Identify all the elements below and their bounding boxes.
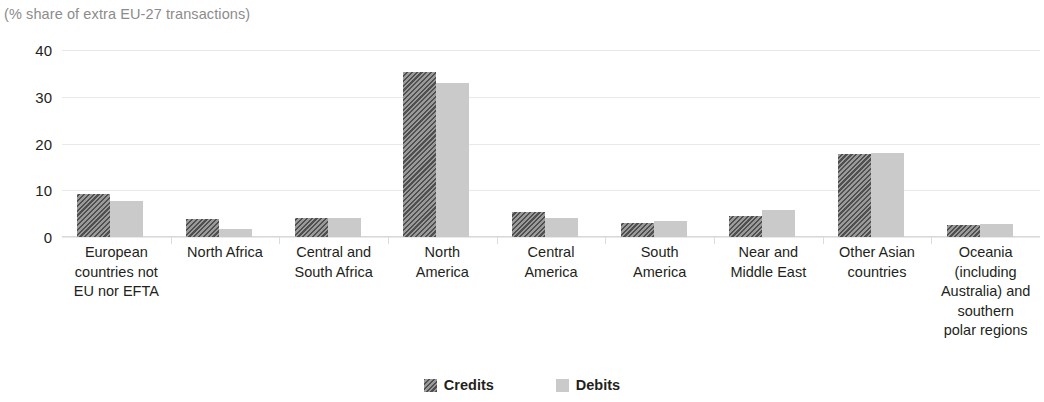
category-label-line: Central and — [275, 243, 392, 263]
bar-credits — [729, 216, 762, 237]
bar-debits — [654, 221, 687, 237]
bar-group — [62, 50, 171, 237]
legend-item-credits[interactable]: Credits — [424, 377, 494, 393]
legend-item-debits[interactable]: Debits — [556, 377, 620, 393]
bar-debits — [545, 218, 578, 237]
category-label-line: America — [493, 263, 610, 283]
category-label-line: South Africa — [275, 263, 392, 283]
x-axis-category-label: North Africa — [167, 243, 284, 263]
bar-credits — [295, 218, 328, 237]
x-axis-category-label: Other Asiancountries — [819, 243, 936, 282]
legend-label: Credits — [444, 377, 494, 393]
category-label-line: Other Asian — [819, 243, 936, 263]
category-label-line: Australia) and — [927, 282, 1044, 302]
category-label-line: America — [601, 263, 718, 283]
bar-debits — [436, 83, 469, 237]
bar-credits — [403, 72, 436, 237]
gridline-0 — [62, 237, 1040, 238]
bar-group — [714, 50, 823, 237]
bar-credits — [947, 225, 980, 237]
bar-group — [931, 50, 1040, 237]
category-label-line: Central — [493, 243, 610, 263]
bar-debits — [219, 229, 252, 237]
category-label-line: polar regions — [927, 321, 1044, 341]
category-label-line: EU nor EFTA — [58, 282, 175, 302]
category-label-line: (including — [927, 263, 1044, 283]
bar-debits — [980, 224, 1013, 237]
category-label-line: Middle East — [710, 263, 827, 283]
y-axis-tick-label: 0 — [10, 230, 52, 245]
bar-credits — [186, 219, 219, 237]
bar-credits — [512, 212, 545, 237]
y-axis-tick-label: 20 — [10, 136, 52, 151]
category-label-line: countries not — [58, 263, 175, 283]
y-axis-tick-label: 40 — [10, 43, 52, 58]
x-axis-category-label: Near andMiddle East — [710, 243, 827, 282]
x-axis-category-label: SouthAmerica — [601, 243, 718, 282]
x-axis-category-label: Europeancountries notEU nor EFTA — [58, 243, 175, 302]
bar-credits — [621, 223, 654, 237]
chart-subtitle: (% share of extra EU-27 transactions) — [4, 6, 250, 22]
bar-debits — [762, 210, 795, 237]
category-label-line: North Africa — [167, 243, 284, 263]
bar-group — [605, 50, 714, 237]
category-label-line: Near and — [710, 243, 827, 263]
category-label-line: southern — [927, 302, 1044, 322]
x-axis-category-label: NorthAmerica — [384, 243, 501, 282]
bar-group — [171, 50, 280, 237]
x-axis-category-label: Central andSouth Africa — [275, 243, 392, 282]
category-label-line: America — [384, 263, 501, 283]
chart-legend: CreditsDebits — [0, 377, 1044, 393]
bar-debits — [871, 153, 904, 237]
bar-chart: (% share of extra EU-27 transactions) 01… — [0, 0, 1044, 402]
category-label-line: European — [58, 243, 175, 263]
y-axis-tick-label: 30 — [10, 89, 52, 104]
x-axis-category-label: Oceania(includingAustralia) andsouthernp… — [927, 243, 1044, 341]
legend-label: Debits — [576, 377, 620, 393]
plot-area: 010203040 — [62, 50, 1040, 237]
bar-debits — [328, 218, 361, 237]
bar-credits — [77, 194, 110, 237]
category-label-line: Oceania — [927, 243, 1044, 263]
category-label-line: South — [601, 243, 718, 263]
bar-debits — [110, 201, 143, 237]
bar-group — [823, 50, 932, 237]
category-label-line: countries — [819, 263, 936, 283]
bar-group — [279, 50, 388, 237]
light-gray-swatch — [556, 379, 569, 392]
hatched-dark-gray-swatch — [424, 379, 437, 392]
category-label-line: North — [384, 243, 501, 263]
bar-credits — [838, 154, 871, 237]
bar-group — [388, 50, 497, 237]
y-axis-tick-label: 10 — [10, 183, 52, 198]
bar-group — [497, 50, 606, 237]
x-axis-category-label: CentralAmerica — [493, 243, 610, 282]
